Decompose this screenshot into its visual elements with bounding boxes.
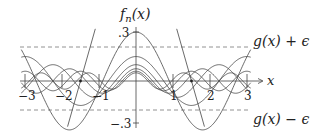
x-tick-label-1: 1 bbox=[170, 89, 178, 103]
x-tick-label-m1: −1 bbox=[92, 89, 110, 103]
lower-band-label: g(x) − ϵ bbox=[253, 111, 309, 127]
upper-band-label: g(x) + ϵ bbox=[253, 33, 309, 49]
x-tick-label-3: 3 bbox=[244, 89, 252, 103]
x-axis-label: x bbox=[267, 73, 275, 88]
x-tick-label-2: 2 bbox=[207, 89, 215, 103]
y-tick-label-top: .3 bbox=[118, 26, 129, 40]
x-tick-label-m2: −2 bbox=[55, 89, 73, 103]
x-tick-label-m3: −3 bbox=[18, 89, 36, 103]
point-right bbox=[190, 80, 193, 83]
chart: fn(x) .3 −.3 x g(x) + ϵ g(x) − ϵ −3 −2 −… bbox=[0, 0, 319, 136]
y-tick-label-bottom: −.3 bbox=[110, 117, 132, 131]
y-axis-label: fn(x) bbox=[119, 6, 150, 24]
point-left bbox=[79, 80, 82, 83]
